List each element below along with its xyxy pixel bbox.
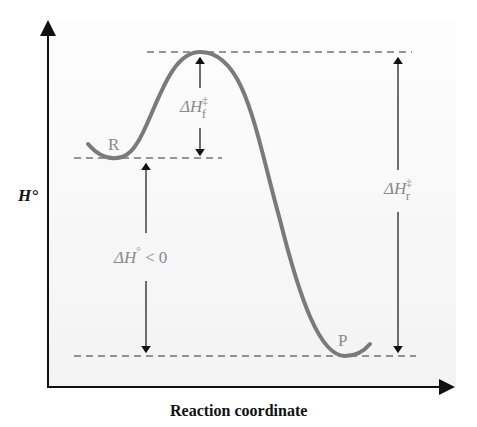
energy-curve xyxy=(88,52,370,356)
reaction-enthalpy-label: ΔH° < 0 xyxy=(114,249,167,266)
enthalpy-diagram: R P ΔH‡f ΔH° < 0 ΔH‡r H° Reaction coordi… xyxy=(0,0,477,427)
product-label: P xyxy=(338,332,347,349)
forward-barrier-label: ΔH‡f xyxy=(180,98,206,115)
reverse-barrier-label: ΔH‡r xyxy=(384,180,410,197)
diagram-graphics xyxy=(0,0,477,427)
reactant-label: R xyxy=(108,136,119,153)
y-axis-label: H° xyxy=(18,186,38,206)
x-axis-label: Reaction coordinate xyxy=(170,402,307,420)
